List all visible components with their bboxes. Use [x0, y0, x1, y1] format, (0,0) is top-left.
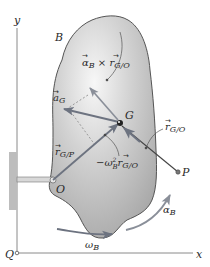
axis-label-y: y [13, 14, 21, 27]
rigid-body-B [49, 16, 156, 238]
point-label-P: P [181, 166, 190, 179]
wall-support [9, 152, 17, 210]
support-arm [17, 177, 56, 183]
origin-Q-marker [15, 251, 19, 255]
point-P-marker [176, 170, 180, 174]
svg-text:→: → [82, 52, 88, 60]
kinematics-diagram: y x Q B G O P αB × rG/O → → aG → rG/P → … [0, 0, 210, 267]
point-G-marker [117, 120, 123, 126]
svg-text:→: → [55, 142, 61, 150]
axis-label-x: x [196, 248, 203, 261]
svg-text:→: → [53, 88, 59, 96]
point-label-O: O [56, 183, 65, 196]
label-alpha-B: αB [163, 204, 176, 217]
point-label-G: G [125, 109, 134, 122]
origin-label-Q: Q [5, 248, 14, 261]
label-omega-B: ωB [85, 239, 99, 252]
svg-text:→: → [123, 152, 129, 160]
svg-text:→: → [165, 117, 171, 125]
body-label-B: B [54, 31, 63, 44]
label-r-G-O: rG/O → [165, 117, 186, 134]
svg-text:→: → [113, 52, 119, 60]
diagram-canvas: y x Q B G O P αB × rG/O → → aG → rG/P → … [0, 0, 210, 267]
